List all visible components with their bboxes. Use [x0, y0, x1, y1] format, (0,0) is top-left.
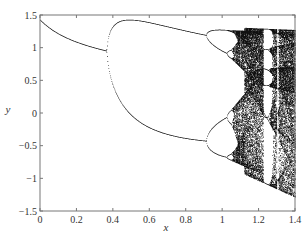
bifurcation-points	[40, 20, 296, 198]
x-tick-label: 0	[38, 214, 43, 225]
y-tick-label: −1	[26, 173, 37, 184]
y-tick-label: −1.5	[19, 206, 37, 217]
y-tick-label: −0.5	[19, 140, 37, 151]
x-tick-label: 0.2	[70, 214, 83, 225]
x-axis-label: x	[163, 221, 169, 233]
x-tick-label: 1.4	[289, 214, 302, 225]
scatter-points	[40, 20, 296, 198]
y-tick-label: 1.5	[25, 10, 38, 21]
y-tick-label: 0.5	[25, 75, 38, 86]
y-tick-label: 1	[32, 42, 37, 53]
x-tick-label: 0.8	[179, 214, 192, 225]
y-tick-label: 0	[32, 108, 37, 119]
x-tick-label: 0.6	[143, 214, 156, 225]
y-axis-label: y	[5, 103, 11, 115]
bifurcation-chart: 00.20.40.60.811.21.4 1.510.50−0.5−1−1.5 …	[0, 0, 307, 236]
x-tick-label: 0.4	[107, 214, 120, 225]
x-tick-label: 1.2	[252, 214, 265, 225]
x-tick-label: 1	[220, 214, 225, 225]
